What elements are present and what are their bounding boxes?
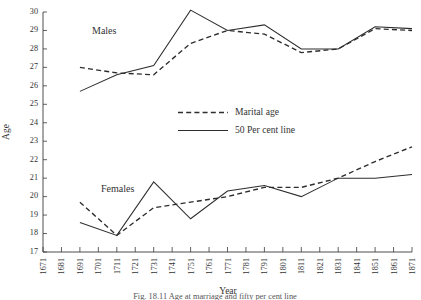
x-axis-tick-label: 1771 <box>224 258 233 274</box>
series-group-label-males: Males <box>92 25 117 36</box>
x-axis-tick-label: 1871 <box>408 258 417 274</box>
x-axis-tick-label: 1851 <box>371 258 380 274</box>
figure-caption: Fig. 18.11 Age at marriage and fifty per… <box>133 292 297 300</box>
series-line-males-marital-age <box>80 29 412 75</box>
x-axis-tick-label: 1761 <box>205 258 214 274</box>
x-axis-tick-label: 1721 <box>131 258 140 274</box>
x-axis-tick-label: 1811 <box>297 258 306 274</box>
legend-label-fifty-per-cent-line: 50 Per cent line <box>235 124 295 135</box>
series-line-males-50-per-cent-line <box>80 10 412 91</box>
y-axis-title: Age <box>1 124 11 140</box>
x-axis-tick-label: 1711 <box>113 258 122 274</box>
axes <box>43 12 412 252</box>
y-axis-tick-label: 25 <box>30 99 38 108</box>
x-axis-tick-label: 1681 <box>57 258 66 274</box>
chart-legend: Marital age 50 Per cent line <box>178 106 295 135</box>
x-axis-tick-labels: 1671168116911701171117211731174117511761… <box>39 258 417 274</box>
y-axis-tick-labels: 1718192021222324252627282930 <box>30 7 38 256</box>
x-axis-tick-label: 1731 <box>150 258 159 274</box>
y-axis-tick-label: 29 <box>30 25 38 34</box>
x-axis-tick-label: 1791 <box>260 258 269 274</box>
x-axis-tick-label: 1821 <box>316 258 325 274</box>
y-axis-tick-label: 24 <box>30 118 38 127</box>
x-axis-ticks <box>43 247 412 252</box>
x-axis-tick-label: 1831 <box>334 258 343 274</box>
series-group-label-females: Females <box>101 183 134 194</box>
line-chart: 1718192021222324252627282930 16711681169… <box>0 0 421 300</box>
x-axis-tick-label: 1671 <box>39 258 48 274</box>
y-axis-tick-label: 22 <box>30 155 38 164</box>
x-axis-tick-label: 1741 <box>168 258 177 274</box>
y-axis-tick-label: 21 <box>30 173 38 182</box>
legend-label-marital-age: Marital age <box>235 106 279 117</box>
x-axis-tick-label: 1801 <box>279 258 288 274</box>
y-axis-tick-label: 30 <box>30 7 38 16</box>
y-axis-tick-label: 26 <box>30 81 38 90</box>
figure-container: 1718192021222324252627282930 16711681169… <box>0 0 421 300</box>
y-axis-tick-label: 17 <box>30 247 38 256</box>
x-axis-tick-label: 1751 <box>187 258 196 274</box>
x-axis-tick-label: 1861 <box>390 258 399 274</box>
y-axis-tick-label: 23 <box>30 136 38 145</box>
y-axis-ticks <box>43 12 47 252</box>
y-axis-tick-label: 20 <box>30 191 38 200</box>
x-axis-tick-label: 1841 <box>353 258 362 274</box>
x-axis-tick-label: 1691 <box>76 258 85 274</box>
x-axis-tick-label: 1701 <box>94 258 103 274</box>
y-axis-tick-label: 27 <box>30 62 38 71</box>
x-axis-tick-label: 1781 <box>242 258 251 274</box>
y-axis-tick-label: 18 <box>30 228 38 237</box>
y-axis-tick-label: 19 <box>30 210 38 219</box>
y-axis-tick-label: 28 <box>30 44 38 53</box>
